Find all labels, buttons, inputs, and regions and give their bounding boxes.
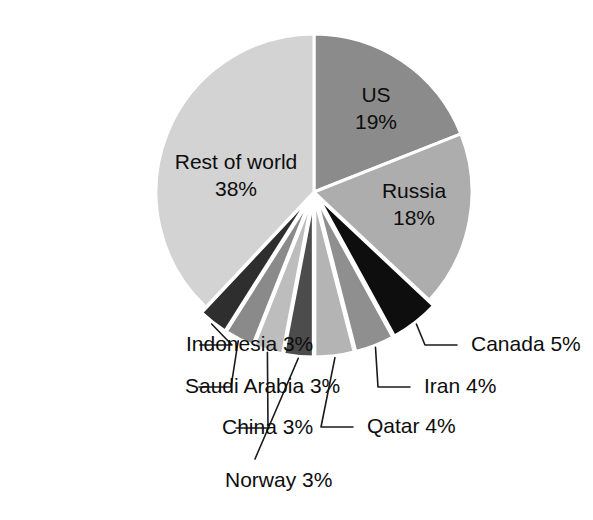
slice-label-indonesia: Indonesia 3% (186, 332, 313, 355)
pie-chart-canvas: US19%Russia18%Rest of world38%Canada 5%I… (0, 0, 593, 520)
slice-label-iran: Iran 4% (424, 374, 496, 397)
leader-line-canada (416, 324, 457, 345)
slice-label-china: China 3% (222, 415, 313, 438)
slice-value-russia: 18% (393, 206, 435, 229)
slice-label-rest-of-world: Rest of world (175, 150, 298, 173)
slice-label-norway: Norway 3% (225, 468, 332, 491)
slice-value-us: 19% (355, 110, 397, 133)
slice-label-saudi-arabia: Saudi Arabia 3% (185, 374, 340, 397)
leader-line-iran (375, 347, 410, 387)
slice-label-qatar: Qatar 4% (367, 414, 456, 437)
pie-chart-figure: US19%Russia18%Rest of world38%Canada 5%I… (0, 0, 593, 520)
slice-label-russia: Russia (382, 179, 447, 202)
slice-label-canada: Canada 5% (471, 332, 581, 355)
slice-value-rest-of-world: 38% (215, 177, 257, 200)
slice-label-us: US (361, 83, 390, 106)
